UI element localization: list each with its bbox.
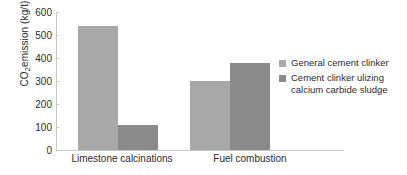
legend-label-carbide-sludge-clinker: Cement clinker ulizingcalcium carbide sl… <box>291 72 388 96</box>
legend-item-general-cement-clinker[interactable]: General cement clinker <box>279 57 405 69</box>
bar-fuel-general-cement-clinker <box>190 81 230 150</box>
x-axis-line <box>56 150 344 151</box>
y-tick-label-200: 200 <box>18 100 52 110</box>
legend-swatch-icon-series-b <box>279 75 286 82</box>
chart-legend: General cement clinker Cement clinker ul… <box>279 57 405 99</box>
bar-limestone-carbide-sludge-clinker <box>118 125 158 150</box>
x-category-label-limestone-calcinations: Limestone calcinations <box>58 153 186 165</box>
legend-label-line-2: calcium carbide sludge <box>291 84 388 95</box>
y-tick-label-400: 400 <box>18 54 52 64</box>
y-axis-tick-labels: 600 500 400 300 200 100 0 <box>0 0 52 175</box>
y-tick-label-300: 300 <box>18 77 52 87</box>
legend-item-carbide-sludge-clinker[interactable]: Cement clinker ulizingcalcium carbide sl… <box>279 72 405 96</box>
y-tick-label-100: 100 <box>18 123 52 133</box>
y-tick-label-500: 500 <box>18 31 52 41</box>
legend-label-line-1: Cement clinker ulizing <box>291 72 384 83</box>
y-tick-label-0: 0 <box>18 146 52 156</box>
y-tick-label-600: 600 <box>18 8 52 18</box>
co2-emission-bar-chart: CO2emission (kg/t) 600 500 400 300 200 1… <box>0 0 407 175</box>
x-category-label-fuel-combustion: Fuel combustion <box>186 153 314 165</box>
bar-limestone-general-cement-clinker <box>78 26 118 150</box>
plot-area <box>56 12 256 150</box>
legend-swatch-icon-series-a <box>279 60 286 67</box>
bar-fuel-carbide-sludge-clinker <box>230 63 270 150</box>
legend-label-general-cement-clinker: General cement clinker <box>291 57 389 69</box>
